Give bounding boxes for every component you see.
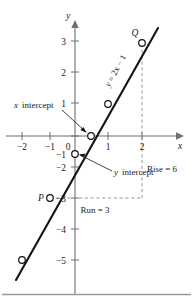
x-intercept-annotation: xintercept xyxy=(13,100,54,110)
x-tick-label--1: −1 xyxy=(45,142,55,152)
data-points xyxy=(19,40,146,264)
equation-label-rest: = 2x − 1 xyxy=(105,53,128,83)
x-intercept-leader xyxy=(62,110,87,133)
x-axis-label: x xyxy=(177,141,183,151)
svg-text:y= 2x − 1: y= 2x − 1 xyxy=(102,53,128,89)
y-tick-label-3: 3 xyxy=(61,37,66,47)
y-intercept-annotation-var: y xyxy=(113,167,118,177)
run-label: Run = 3 xyxy=(80,205,110,215)
y-axis-label: y xyxy=(65,11,71,21)
y-tick-label--5: −5 xyxy=(56,256,66,266)
x-intercept-annotation-word: intercept xyxy=(22,100,54,110)
y-tick-label--1: −1 xyxy=(56,150,66,160)
x-intercept-annotation-var: x xyxy=(13,100,18,110)
coordinate-plane: −2 −1 0 1 2 3 2 1 −1 −2 −3 −4 −5 x y P Q… xyxy=(0,0,193,302)
equation-label: y= 2x − 1 xyxy=(102,53,128,89)
x-tick-label-2: 2 xyxy=(140,142,145,152)
y-intercept-leader xyxy=(79,154,112,171)
y-tick-label--2: −2 xyxy=(56,163,66,173)
x-tick-label--2: −2 xyxy=(17,142,27,152)
y-tick-label-1: 1 xyxy=(61,99,66,109)
point-marker xyxy=(19,257,26,264)
point-marker-x-intercept xyxy=(88,133,95,140)
y-tick-label-2: 2 xyxy=(61,68,66,78)
point-marker-p xyxy=(47,195,54,202)
point-label-q: Q xyxy=(132,28,139,38)
rise-label: Rise = 6 xyxy=(147,164,178,174)
y-tick-label--3: −3 xyxy=(56,194,66,204)
x-tick-label-0: 0 xyxy=(66,142,71,152)
line-graph xyxy=(16,28,158,280)
y-tick-label--4: −4 xyxy=(56,225,66,235)
point-marker-y-intercept xyxy=(72,151,79,158)
point-marker xyxy=(105,101,112,108)
graph-figure: −2 −1 0 1 2 3 2 1 −1 −2 −3 −4 −5 x y P Q… xyxy=(0,0,193,302)
point-label-p: P xyxy=(37,193,44,203)
x-tick-label-1: 1 xyxy=(106,142,111,152)
point-marker-q xyxy=(139,40,146,47)
